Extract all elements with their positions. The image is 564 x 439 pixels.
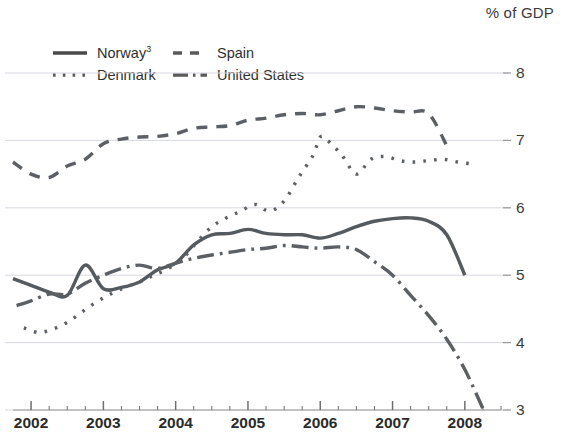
x-axis-tick-label: 2004	[158, 415, 192, 431]
y-axis-tick-label: 6	[516, 200, 525, 216]
y-axis-tick-label: 3	[516, 402, 525, 418]
series-line-denmark	[24, 136, 472, 332]
x-axis-tick-label: 2008	[448, 415, 482, 431]
y-axis-tick-label: 4	[516, 335, 525, 351]
y-axis-tick-label: 7	[516, 133, 525, 149]
x-axis-tick-label: 2003	[86, 415, 120, 431]
series-line-spain	[13, 107, 447, 178]
x-axis-tick-label: 2007	[375, 415, 409, 431]
x-axis-tick-label: 2006	[303, 415, 337, 431]
y-axis-tick-label: 5	[516, 267, 525, 283]
x-axis-tick-label: 2005	[231, 415, 265, 431]
x-axis-tick-label: 2002	[14, 415, 48, 431]
chart-container: % of GDP Norway3 Spain Denmark United St…	[0, 0, 564, 439]
series-line-united-states	[17, 246, 483, 409]
y-axis-tick-label: 8	[516, 65, 525, 81]
chart-plot-area	[0, 0, 564, 439]
